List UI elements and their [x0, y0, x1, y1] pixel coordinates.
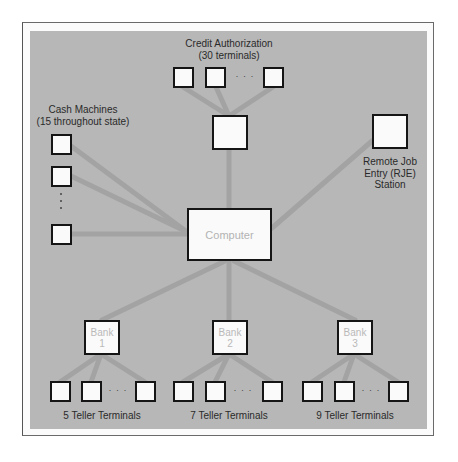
bank-2-node: Bank 2	[212, 320, 248, 355]
computer-node: Computer	[187, 208, 272, 261]
bank-1-terminals-label: 5 Teller Terminals	[63, 410, 140, 422]
rje-station-label: Remote Job Entry (RJE) Station	[363, 156, 417, 191]
teller-terminal-node	[388, 381, 409, 402]
bank-3-terminals-ellipsis: · · ·	[362, 385, 381, 395]
bank-3-node: Bank 3	[337, 320, 373, 355]
bank-3-label: Bank 3	[344, 327, 367, 349]
bank-1-terminals-ellipsis: · · ·	[109, 385, 128, 395]
teller-terminal-node	[173, 381, 194, 402]
credit-authorization-label: Credit Authorization (30 terminals)	[185, 38, 272, 61]
teller-terminal-node	[205, 381, 226, 402]
credit-terminals-ellipsis: · · ·	[236, 71, 255, 81]
credit-terminal-node	[205, 67, 226, 88]
teller-terminal-node	[262, 381, 283, 402]
bank-2-terminals-label: 7 Teller Terminals	[190, 410, 267, 422]
bank-2-label: Bank 2	[219, 327, 242, 349]
cash-machine-node	[51, 134, 72, 155]
computer-label: Computer	[205, 229, 253, 241]
bank-1-label: Bank 1	[91, 327, 114, 349]
cash-machines-label: Cash Machines (15 throughout state)	[37, 104, 130, 127]
teller-terminal-node	[334, 381, 355, 402]
teller-terminal-node	[302, 381, 323, 402]
cash-machine-node	[51, 224, 72, 245]
teller-terminal-node	[50, 381, 71, 402]
credit-terminal-node	[173, 67, 194, 88]
bank-2-terminals-ellipsis: · · ·	[234, 385, 253, 395]
teller-terminal-node	[81, 381, 102, 402]
bank-1-node: Bank 1	[84, 320, 120, 355]
teller-terminal-node	[135, 381, 156, 402]
cash-machines-ellipsis	[60, 193, 62, 214]
credit-terminal-node	[263, 67, 284, 88]
bank-3-terminals-label: 9 Teller Terminals	[316, 410, 393, 422]
rje-station-node	[372, 114, 408, 149]
credit-concentrator-node	[212, 115, 248, 150]
cash-machine-node	[51, 166, 72, 187]
